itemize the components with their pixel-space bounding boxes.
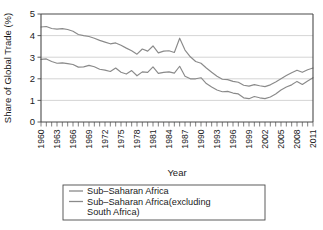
x-tick-label: 1969 xyxy=(84,129,94,148)
x-tick-label: 2008 xyxy=(292,129,302,148)
x-axis-label: Year xyxy=(167,167,186,178)
x-tick-label: 1960 xyxy=(36,129,46,148)
legend-label-0: Sub–Saharan Africa xyxy=(87,186,170,196)
chart-legend: Sub–Saharan AfricaSub–Saharan Africa(exc… xyxy=(63,185,265,220)
x-tick-label: 1981 xyxy=(148,129,158,148)
x-tick-label: 1978 xyxy=(132,129,142,148)
y-axis-ticks: 012345 xyxy=(30,8,41,127)
x-axis-ticks: 1960196319661969197219751978198119841987… xyxy=(36,122,318,149)
x-tick-label: 1993 xyxy=(212,129,222,148)
x-tick-label: 1975 xyxy=(116,129,126,148)
x-tick-label: 2002 xyxy=(260,129,270,148)
x-tick-label: 2011 xyxy=(308,129,318,148)
plot-frame xyxy=(41,14,313,122)
line-chart: 012345 196019631966196919721975197819811… xyxy=(0,0,323,230)
x-tick-label: 1987 xyxy=(180,129,190,148)
legend-label-2: South Africa) xyxy=(87,207,140,217)
y-tick-label: 5 xyxy=(30,8,35,19)
y-tick-label: 0 xyxy=(30,116,35,127)
x-tick-label: 1972 xyxy=(100,129,110,148)
y-tick-label: 2 xyxy=(30,73,35,84)
y-axis-label: Share of Global Trade (%) xyxy=(2,13,13,123)
x-tick-label: 1963 xyxy=(52,129,62,148)
y-tick-label: 4 xyxy=(30,30,35,41)
x-tick-label: 1996 xyxy=(228,129,238,148)
x-tick-label: 1990 xyxy=(196,129,206,148)
series-lines xyxy=(41,27,313,99)
y-tick-label: 1 xyxy=(30,95,35,106)
chart-figure: 012345 196019631966196919721975197819811… xyxy=(0,0,323,230)
x-tick-label: 1966 xyxy=(68,129,78,148)
y-tick-label: 3 xyxy=(30,52,35,63)
x-tick-label: 1999 xyxy=(244,129,254,148)
x-tick-label: 2005 xyxy=(276,129,286,148)
x-tick-label: 1984 xyxy=(164,129,174,148)
legend-label-1: Sub–Saharan Africa(excluding xyxy=(87,197,211,207)
